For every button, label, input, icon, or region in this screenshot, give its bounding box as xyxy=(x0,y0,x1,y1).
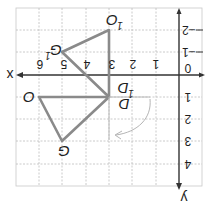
vertex-label-o1: O xyxy=(106,12,118,29)
vertex-label-o: O xyxy=(23,89,35,106)
vertex-label-o1-subscript: 1 xyxy=(117,20,123,31)
y-tick-label: 2 xyxy=(184,112,191,126)
y-tick-label: −2 xyxy=(182,23,196,37)
x-tick-label: 3 xyxy=(108,57,115,71)
vertex-label-d: D xyxy=(118,96,129,113)
y-tick-label: −1 xyxy=(182,45,196,59)
y-tick-label: 1 xyxy=(184,90,191,104)
x-axis-arrow-icon xyxy=(16,72,23,78)
labels: x y 0 1 2 3 4 5 6 −2 −1 1 2 3 4 O G D D … xyxy=(7,12,196,207)
vertex-label-g1-subscript: 1 xyxy=(45,50,51,61)
x-axis-label: x xyxy=(7,67,14,83)
origin-label: 0 xyxy=(184,61,191,75)
vertex-label-d1-subscript: 1 xyxy=(128,88,134,99)
vertex-label-d1: D xyxy=(117,80,128,97)
x-tick-label: 4 xyxy=(83,57,90,71)
x-tick-label: 2 xyxy=(129,57,136,71)
y-axis-label: y xyxy=(181,190,188,206)
coordinate-grid-diagram: x y 0 1 2 3 4 5 6 −2 −1 1 2 3 4 O G D D … xyxy=(0,0,212,207)
vertex-label-g: G xyxy=(58,143,70,160)
y-tick-label: 3 xyxy=(184,134,191,148)
y-tick-label: 4 xyxy=(184,157,191,171)
x-tick-label: 6 xyxy=(36,57,43,71)
y-axis-arrow-end-icon xyxy=(177,8,182,14)
x-tick-label: 1 xyxy=(152,57,159,71)
axes xyxy=(16,8,205,190)
y-axis-arrow-icon xyxy=(176,183,182,190)
